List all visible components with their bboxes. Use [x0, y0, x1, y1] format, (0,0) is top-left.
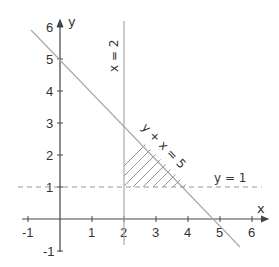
y-tick-label: 3	[46, 116, 53, 131]
label-x-equals-2: x = 2	[107, 40, 121, 72]
x-tick-label: 5	[216, 225, 223, 240]
x-tick-label: 6	[248, 225, 255, 240]
y-tick-label: 6	[46, 20, 53, 35]
x-tick-label: 3	[152, 225, 159, 240]
x-tick-label: -1	[22, 225, 34, 240]
y-tick-label: 4	[46, 84, 53, 99]
label-y-equals-1: y = 1	[214, 171, 246, 185]
x-tick-label: 1	[88, 225, 95, 240]
y-tick-label: 5	[46, 52, 53, 67]
y-tick-label: -1	[43, 244, 55, 259]
coordinate-plane: -1 1 2 3 4 5 6 -1 1 2 3 4 5 6 x y x = 2 …	[0, 0, 279, 267]
x-axis-label: x	[257, 201, 265, 216]
y-tick-label: 2	[46, 148, 53, 163]
line-y-plus-x-equals-5	[31, 30, 240, 247]
y-axis-label: y	[68, 14, 76, 29]
x-tick-label: 4	[184, 225, 191, 240]
